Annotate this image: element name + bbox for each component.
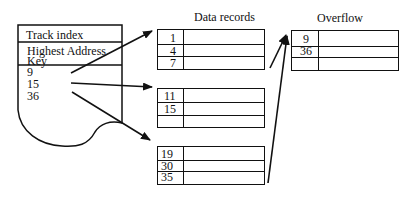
record-key: 35 bbox=[161, 171, 173, 183]
data-block-2: 11 15 bbox=[157, 88, 265, 128]
overflow-title: Overflow bbox=[317, 12, 363, 24]
overflow-key: 36 bbox=[300, 45, 312, 57]
arrow-36-to-block3 bbox=[72, 92, 150, 140]
record-key: 7 bbox=[170, 57, 176, 69]
record-key: 1 bbox=[170, 32, 176, 44]
index-key-36: 36 bbox=[27, 90, 39, 102]
overflow-block: 9 36 bbox=[291, 30, 399, 71]
data-records-title: Data records bbox=[194, 11, 255, 23]
data-block-1: 1 4 7 bbox=[157, 29, 265, 70]
arrow-block3-to-overflow bbox=[268, 36, 287, 183]
record-key: 11 bbox=[164, 90, 176, 102]
track-index-title: Track index bbox=[26, 29, 83, 41]
arrow-15-to-block2 bbox=[71, 83, 152, 87]
data-block-3: 19 30 35 bbox=[157, 146, 265, 185]
record-key: 15 bbox=[164, 103, 176, 115]
